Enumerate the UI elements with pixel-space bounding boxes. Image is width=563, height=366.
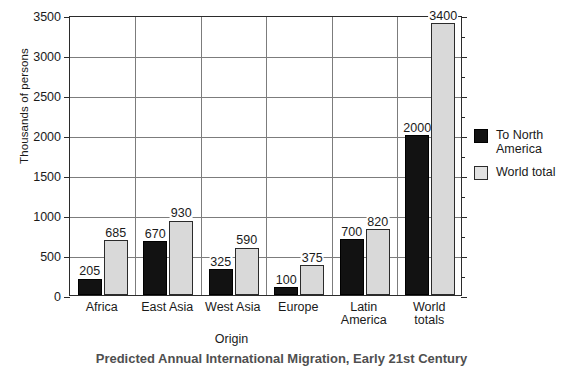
bar[interactable]: 2000 <box>405 135 429 295</box>
bar-group: 325590 <box>201 17 267 295</box>
bar-value-label: 685 <box>104 227 127 240</box>
bar[interactable]: 930 <box>169 221 193 295</box>
bar-value-label: 100 <box>275 274 298 287</box>
bar[interactable]: 590 <box>235 248 259 295</box>
legend-item-world-total[interactable]: World total <box>474 165 560 180</box>
bar[interactable]: 700 <box>340 239 364 295</box>
bar-group: 700820 <box>332 17 398 295</box>
y-axis-title: Thousands of persons <box>18 36 30 176</box>
y-axis-tick-label: 3000 <box>33 51 61 64</box>
legend-swatch-to-north-america <box>474 129 488 143</box>
y-axis-tick-label: 3500 <box>33 11 61 24</box>
bar-group: 20003400 <box>398 17 464 295</box>
bar[interactable]: 205 <box>78 279 102 295</box>
x-axis-category-label: World totals <box>397 301 463 327</box>
bar-value-label: 670 <box>144 228 167 241</box>
bar-group: 100375 <box>267 17 333 295</box>
y-axis-tick-right <box>461 297 467 298</box>
bar[interactable]: 325 <box>209 269 233 295</box>
x-axis-title: Origin <box>0 332 463 346</box>
figure-caption: Predicted Annual International Migration… <box>0 351 563 366</box>
bar-group: 205685 <box>70 17 136 295</box>
bar-group: 670930 <box>136 17 202 295</box>
bar-value-label: 590 <box>235 234 258 247</box>
legend-label-to-north-america: To North America <box>496 128 543 156</box>
y-axis-tick-label: 2500 <box>33 91 61 104</box>
bar-value-label: 700 <box>340 226 363 239</box>
y-axis-tick-label: 500 <box>40 251 61 264</box>
bar[interactable]: 820 <box>366 229 390 295</box>
y-axis-tick-label: 2000 <box>33 131 61 144</box>
x-axis-category-label: Europe <box>266 301 332 314</box>
bar[interactable]: 3400 <box>431 23 455 295</box>
legend-label-world-total: World total <box>496 165 556 179</box>
bar[interactable]: 685 <box>104 240 128 295</box>
bar-value-label: 820 <box>366 216 389 229</box>
x-axis-category-label: East Asia <box>135 301 201 314</box>
y-axis-tick-label: 1500 <box>33 171 61 184</box>
bar-value-label: 205 <box>78 265 101 278</box>
bar-value-label: 2000 <box>402 122 432 135</box>
plot-area: 0500100015002000250030003500205685670930… <box>69 16 462 296</box>
x-axis-category-label: Africa <box>69 301 135 314</box>
x-axis-category-label: Latin America <box>331 301 397 327</box>
bar-value-label: 325 <box>209 256 232 269</box>
bar-value-label: 375 <box>301 252 324 265</box>
x-axis-category-label: West Asia <box>200 301 266 314</box>
bar-value-label: 930 <box>170 207 193 220</box>
chart-legend: To North America World total <box>474 128 560 189</box>
y-axis-tick <box>64 297 70 298</box>
bar[interactable]: 375 <box>300 265 324 295</box>
legend-item-to-north-america[interactable]: To North America <box>474 128 560 156</box>
y-axis-tick-label: 0 <box>54 291 61 304</box>
legend-swatch-world-total <box>474 166 488 180</box>
y-axis-tick-label: 1000 <box>33 211 61 224</box>
bar-value-label: 3400 <box>428 10 458 23</box>
bar[interactable]: 100 <box>274 287 298 295</box>
bar[interactable]: 670 <box>143 241 167 295</box>
